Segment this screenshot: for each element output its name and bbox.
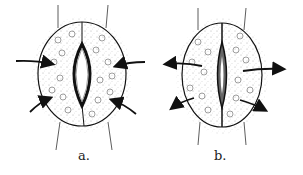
panel-b-closed-stoma (166, 8, 283, 145)
stomata-diagram: a. b. (0, 0, 303, 175)
panel-b-label: b. (214, 148, 226, 163)
stomata-illustration (0, 0, 303, 175)
panel-a-open-stoma (16, 5, 145, 150)
panel-a-label: a. (78, 148, 90, 163)
